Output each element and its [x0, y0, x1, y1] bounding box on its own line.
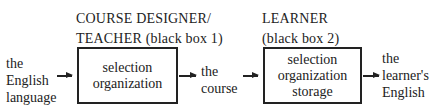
middle-line1: the: [201, 63, 238, 80]
output-line3: English: [382, 84, 429, 101]
box1-line1: selection: [103, 60, 153, 76]
box2-line3: storage: [292, 84, 332, 100]
arrow-box1-to-course: [179, 75, 196, 77]
box1-heading-line2: TEACHER (black box 1): [76, 29, 223, 49]
arrow-course-to-box2: [243, 75, 258, 77]
input-label: the English language: [6, 55, 57, 106]
middle-label: the course: [201, 63, 238, 97]
box2-heading: LEARNER (black box 2): [262, 9, 339, 49]
box1-heading: COURSE DESIGNER/ TEACHER (black box 1): [76, 9, 223, 49]
input-line1: the: [6, 55, 57, 72]
box2-heading-line2: (black box 2): [262, 29, 339, 49]
arrow-input-to-box1: [57, 75, 72, 77]
box1: selection organization: [77, 47, 178, 104]
output-line1: the: [382, 50, 429, 67]
output-label: the learner's English: [382, 50, 429, 101]
input-line3: language: [6, 89, 57, 106]
box1-heading-line1: COURSE DESIGNER/: [76, 9, 223, 29]
box2: selection organization storage: [263, 47, 362, 104]
middle-line2: course: [201, 80, 238, 97]
arrow-box2-to-output: [363, 75, 379, 77]
input-line2: English: [6, 72, 57, 89]
box2-heading-line1: LEARNER: [262, 9, 339, 29]
box2-line1: selection: [288, 52, 338, 68]
box2-line2: organization: [278, 68, 348, 84]
output-line2: learner's: [382, 67, 429, 84]
box1-line2: organization: [93, 76, 163, 92]
